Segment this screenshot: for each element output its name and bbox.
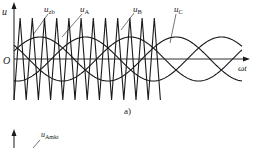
second-label-leader	[33, 140, 40, 148]
curve-label-u-c: uC	[174, 4, 183, 15]
y-axis-label: u	[2, 6, 7, 17]
curve-label-u-b: uB	[133, 4, 143, 15]
y-axis-arrow-icon	[12, 2, 17, 9]
origin-label: O	[3, 55, 10, 66]
x-axis-arrow-icon	[243, 57, 250, 62]
panel-caption: a)	[124, 106, 131, 116]
curve-label-u-amkt: uAmkt	[41, 130, 59, 140]
second-y-axis-arrow-icon	[12, 129, 17, 136]
curve-label-u-a: uA	[80, 4, 90, 15]
x-axis-label: ωt	[238, 63, 247, 73]
curve-label-u-zb: uzb	[44, 4, 55, 15]
second-plot-y-axis	[12, 129, 17, 148]
pwm-waveform-diagram: u ωt O uzb uA uB uC a) uAmkt	[0, 0, 260, 148]
